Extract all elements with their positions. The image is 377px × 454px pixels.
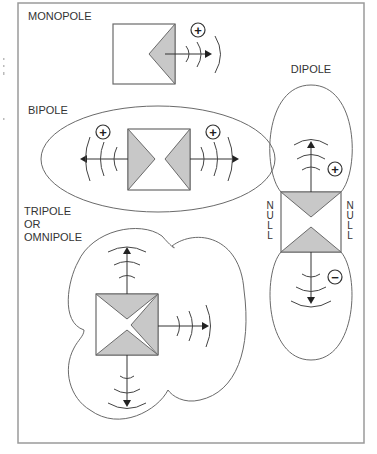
null-label-right: N U L L	[346, 200, 353, 241]
svg-text:+: +	[331, 162, 339, 177]
tripole-label-line2: OR	[24, 218, 41, 230]
monopole-label: MONOPOLE	[28, 10, 92, 22]
svg-text:+: +	[99, 125, 107, 140]
null-label-left: N U L L	[266, 200, 273, 241]
svg-text:−: −	[331, 270, 339, 285]
tripole-label-line3: OMNIPOLE	[24, 231, 82, 243]
svg-text:L: L	[267, 230, 273, 241]
bipole-left-polarity-badge: +	[96, 125, 110, 140]
svg-text:L: L	[347, 230, 353, 241]
dipole-label: DIPOLE	[291, 63, 331, 75]
monopole-polarity-badge: +	[191, 23, 205, 38]
dipole-front-polarity-badge: +	[328, 162, 342, 177]
margin-marks	[3, 58, 5, 120]
svg-text:+: +	[194, 23, 202, 38]
tripole-label-line1: TRIPOLE	[24, 205, 71, 217]
speaker-polarity-diagram: MONOPOLE + BIPOLE +	[0, 0, 377, 454]
dipole-rear-polarity-badge: −	[328, 270, 342, 285]
svg-text:+: +	[209, 125, 217, 140]
bipole-right-polarity-badge: +	[206, 125, 220, 140]
bipole-label: BIPOLE	[28, 104, 68, 116]
